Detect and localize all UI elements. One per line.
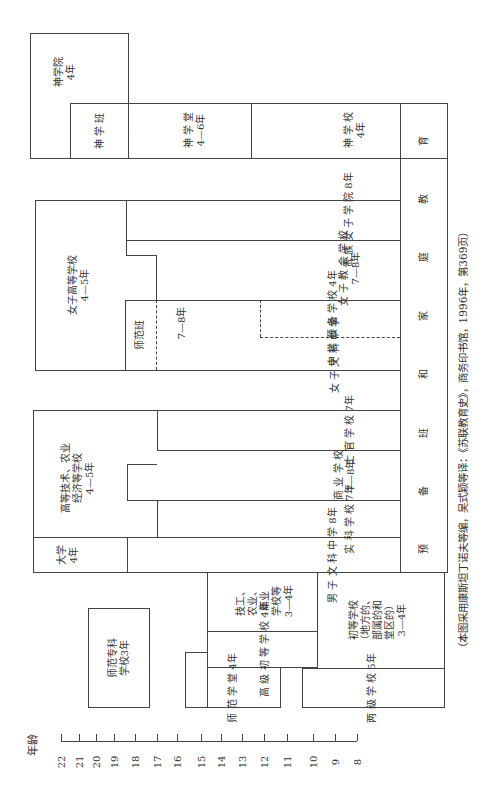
tick-label: 10 — [308, 756, 319, 769]
tick-label: 19 — [109, 756, 120, 769]
tick-label: 18 — [130, 756, 141, 769]
tick-label: 11 — [282, 756, 293, 769]
label-two-level-school: 两 级 学 校 5年 — [366, 653, 378, 722]
dashed-divider — [260, 300, 261, 337]
label-theology-school: 神 学 校 4年 — [343, 112, 367, 148]
dashed-divider — [128, 103, 129, 158]
label-normal-college: 师范专科 学校3年 — [107, 638, 131, 678]
divider — [157, 500, 158, 537]
tick-label: 15 — [196, 756, 207, 769]
label-real-school: 实 科 学 校 7年 — [344, 484, 356, 553]
tick-label: 14 — [216, 756, 227, 769]
label-primary-school: 初等学校 （地方的、 部属的和 堂区的） 3—4年 — [348, 595, 408, 645]
divider — [157, 450, 400, 451]
label-theology-class: 神 学 班 — [94, 113, 106, 149]
axis-title: 年龄 — [28, 734, 40, 756]
divider — [127, 500, 400, 501]
tick-label: 13 — [237, 756, 248, 769]
label-women-higher: 女子高等学校 4—5年 — [67, 255, 91, 315]
label-theology-academy: 神学院 4年 — [53, 57, 77, 87]
label-higher-tech: 高等技术、农业 经济等学校 4—5年 — [60, 443, 96, 513]
tick-label: 17 — [152, 756, 163, 769]
tick-label: 20 — [91, 756, 102, 769]
divider — [156, 255, 157, 300]
divider — [127, 537, 128, 573]
label-normal-class: 师范班 — [134, 320, 146, 350]
block-theology-row — [70, 103, 448, 159]
divider — [157, 410, 158, 450]
tick-label: 21 — [74, 756, 85, 769]
label-years-7-8: 7—8年 — [176, 307, 188, 340]
label-women-church: 女 子 教 会 学 校 7—8年 — [338, 230, 362, 306]
label-normal-hall: 师 范 学 堂 4年 — [227, 653, 239, 722]
age-axis-line — [61, 741, 357, 742]
divider — [127, 464, 128, 500]
tick-label: 16 — [172, 756, 183, 769]
source-caption: （本图采用康斯坦丁诺夫等编，吴式颖等译：《苏联教育史》，商务印书馆，1996年，… — [457, 227, 469, 654]
divider — [125, 300, 126, 370]
tick-label: 8 — [352, 759, 363, 765]
divider — [251, 103, 252, 158]
tick-label: 22 — [56, 756, 67, 769]
label-prep-family: 预 备 班 和 家 庭 教 育 — [418, 122, 430, 555]
tick-label: 12 — [259, 756, 270, 769]
label-women-classical: 女 子 文 科 中 学 — [329, 317, 341, 393]
divider — [126, 255, 156, 256]
label-university: 大学 4年 — [56, 545, 80, 565]
divider — [127, 464, 157, 465]
dashed-divider — [156, 300, 157, 370]
label-theology-hall: 神 学 堂 4—6年 — [183, 112, 207, 148]
divider — [126, 200, 127, 255]
tick-label: 9 — [330, 759, 341, 765]
